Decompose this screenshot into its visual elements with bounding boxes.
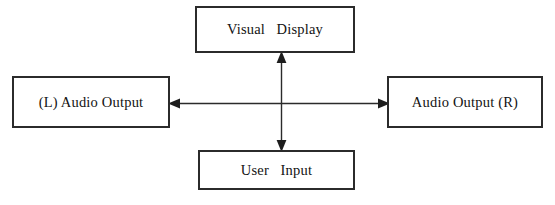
node-user-input[interactable]: User Input (198, 150, 355, 190)
node-visual-display[interactable]: Visual Display (195, 6, 355, 53)
node-audio-output-left[interactable]: (L) Audio Output (12, 76, 170, 128)
vertical-arrow-svg (271, 51, 292, 152)
diagram-canvas: Visual Display (L) Audio Output Audio Ou… (0, 0, 555, 205)
node-user-input-label: User Input (241, 163, 312, 178)
node-audio-output-right-label: Audio Output (R) (412, 95, 518, 110)
node-visual-display-label: Visual Display (227, 22, 323, 37)
node-audio-output-right[interactable]: Audio Output (R) (387, 76, 543, 128)
node-audio-output-left-label: (L) Audio Output (39, 95, 144, 110)
connector-vertical-double-arrow (271, 51, 292, 152)
